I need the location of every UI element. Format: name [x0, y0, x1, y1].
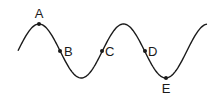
point-c-label: C	[105, 44, 114, 59]
point-e-dot	[164, 76, 168, 80]
point-c: C	[100, 44, 114, 59]
point-a-dot	[37, 22, 41, 26]
point-d-label: D	[148, 44, 157, 59]
point-b: B	[58, 44, 73, 59]
point-e: E	[162, 76, 171, 96]
point-e-label: E	[162, 81, 171, 96]
point-a-label: A	[35, 6, 44, 21]
wave-diagram: A B C D E	[0, 0, 216, 98]
point-c-dot	[100, 49, 104, 53]
point-a: A	[35, 6, 44, 26]
point-b-label: B	[64, 44, 73, 59]
point-b-dot	[58, 49, 62, 53]
point-d: D	[143, 44, 157, 59]
point-d-dot	[143, 49, 147, 53]
